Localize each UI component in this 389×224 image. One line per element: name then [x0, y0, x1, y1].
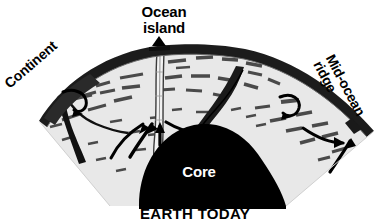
figure-canvas: Oceanisland Continent Mid-oceanridge Cor…	[0, 0, 389, 224]
earth-cross-section-diagram	[0, 0, 389, 224]
ocean-island	[149, 36, 170, 51]
